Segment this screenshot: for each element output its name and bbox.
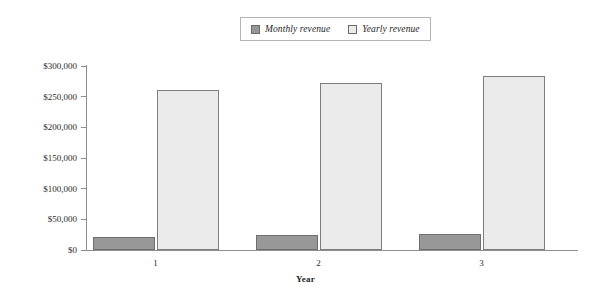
y-axis-tick: $50,000: [48, 214, 86, 224]
chart-legend: Monthly revenue Yearly revenue: [240, 17, 431, 41]
y-axis-tick-mark: [81, 127, 86, 128]
y-axis-tick: $300,000: [43, 61, 86, 71]
bar-yearly-year-1[interactable]: [157, 90, 219, 250]
y-axis-tick-label: $50,000: [48, 214, 81, 224]
legend-item-yearly-revenue[interactable]: Yearly revenue: [348, 24, 419, 34]
plot-area: $0$50,000$100,000$150,000$200,000$250,00…: [86, 66, 575, 250]
y-axis-tick: $0: [68, 245, 86, 255]
legend-label-yearly: Yearly revenue: [362, 24, 419, 34]
bar-monthly-year-2[interactable]: [256, 235, 318, 250]
bar-monthly-year-1[interactable]: [93, 237, 155, 250]
yearly-swatch-icon: [348, 25, 357, 34]
y-axis-tick-label: $300,000: [43, 61, 81, 71]
y-axis-tick-mark: [81, 188, 86, 189]
legend-label-monthly: Monthly revenue: [265, 24, 330, 34]
x-axis-label-3: 3: [479, 258, 484, 268]
y-axis-tick: $150,000: [43, 153, 86, 163]
y-axis-tick: $200,000: [43, 122, 86, 132]
legend-item-monthly-revenue[interactable]: Monthly revenue: [251, 24, 330, 34]
y-axis-tick: $250,000: [43, 92, 86, 102]
y-axis-tick-mark: [81, 96, 86, 97]
bar-yearly-year-3[interactable]: [483, 76, 545, 250]
x-axis-line: [86, 250, 578, 251]
x-axis-label-1: 1: [153, 258, 158, 268]
y-axis-tick-mark: [81, 66, 86, 67]
x-axis-label-2: 2: [316, 258, 321, 268]
y-axis-tick-label: $200,000: [43, 122, 81, 132]
y-axis-tick: $100,000: [43, 184, 86, 194]
y-axis-tick-mark: [81, 250, 86, 251]
y-axis-tick-mark: [81, 219, 86, 220]
y-axis-tick-label: $150,000: [43, 153, 81, 163]
y-axis-tick-label: $0: [68, 245, 81, 255]
bar-chart: Monthly revenue Yearly revenue $0$50,000…: [0, 0, 611, 296]
monthly-swatch-icon: [251, 25, 260, 34]
bar-yearly-year-2[interactable]: [320, 83, 382, 250]
y-axis-tick-label: $250,000: [43, 92, 81, 102]
y-axis-tick-mark: [81, 158, 86, 159]
y-axis-tick-label: $100,000: [43, 184, 81, 194]
x-axis-title: Year: [0, 274, 611, 284]
bar-monthly-year-3[interactable]: [419, 234, 481, 250]
